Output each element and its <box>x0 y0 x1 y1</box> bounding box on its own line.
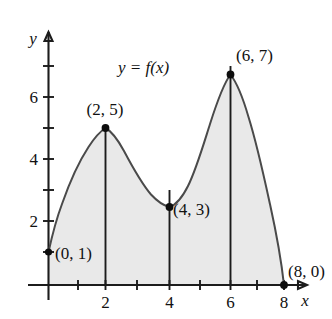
y-tick-label-6: 6 <box>30 88 39 107</box>
point-8-0 <box>280 281 288 289</box>
y-axis-label: y <box>27 29 37 48</box>
graph-canvas: y x 6 4 2 2 4 6 8 (0, 1) (2, 5) (4, 3) (… <box>0 0 332 319</box>
y-tick-label-4: 4 <box>30 150 39 169</box>
x-tick-label-2: 2 <box>101 293 110 312</box>
point-0-1 <box>45 248 52 255</box>
point-label-8-0: (8, 0) <box>288 262 325 281</box>
point-label-0-1: (0, 1) <box>55 244 92 263</box>
x-axis-label: x <box>300 291 309 310</box>
x-tick-label-4: 4 <box>165 293 174 312</box>
point-6-7 <box>227 71 235 79</box>
point-2-5 <box>102 124 110 132</box>
y-tick-label-2: 2 <box>30 212 39 231</box>
function-annotation: y = f(x) <box>116 58 169 77</box>
point-label-2-5: (2, 5) <box>87 100 124 119</box>
x-tick-label-6: 6 <box>226 293 235 312</box>
point-label-4-3: (4, 3) <box>173 200 210 219</box>
figure-container: y x 6 4 2 2 4 6 8 (0, 1) (2, 5) (4, 3) (… <box>0 0 332 319</box>
x-tick-label-8: 8 <box>280 293 289 312</box>
point-label-6-7: (6, 7) <box>236 46 273 65</box>
